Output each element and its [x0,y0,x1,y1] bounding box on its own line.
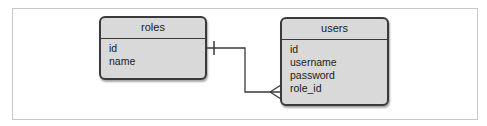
relationship-line [207,48,280,92]
relationship-connector [0,0,487,126]
